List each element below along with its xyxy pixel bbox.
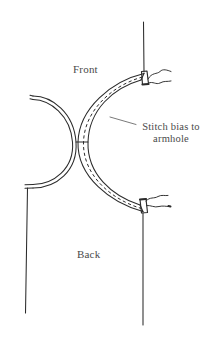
stitch-dash-path [83, 77, 142, 209]
label-front: Front [73, 63, 98, 76]
body-armhole-curve [25, 95, 76, 313]
armhole-inner-arc [33, 100, 73, 185]
bottom-tab-stitch-mark [140, 199, 146, 200]
armhole-top-edge [30, 95, 33, 96]
label-stitch-bias-line1: Stitch bias to [142, 121, 200, 132]
bias-strip-crescent [78, 74, 144, 212]
diagram-canvas [0, 0, 206, 339]
top-thread-tails [148, 70, 171, 84]
top-center-seam [144, 22, 145, 72]
bias-strip-inner-edge [88, 80, 141, 205]
bottom-thread-tails [146, 195, 171, 206]
leader-line-path [110, 117, 136, 125]
top-stitch-tab [142, 71, 149, 85]
armhole-top-edge-inner [30, 99, 33, 100]
bottom-thread-knot [169, 206, 171, 207]
top-center-seam-line [144, 22, 145, 72]
left-side-seam [26, 188, 28, 313]
top-tab-stitch-mark [143, 84, 149, 85]
pattern-diagram: Front Back Stitch bias to armhole [0, 0, 206, 339]
label-stitch-bias: Stitch bias to armhole [138, 121, 204, 146]
top-thread-tail-lower [149, 81, 172, 84]
label-back: Back [77, 248, 100, 261]
stitch-bias-leader-line [110, 117, 136, 125]
armhole-outer-arc [33, 96, 76, 188]
label-stitch-bias-line2: armhole [138, 133, 204, 145]
top-thread-tail-upper [148, 70, 171, 79]
dashed-stitch-line [83, 77, 142, 209]
bottom-thread-tail-lower [147, 205, 170, 206]
top-tab-outline [142, 71, 149, 85]
bottom-thread-tail-upper [146, 195, 168, 201]
